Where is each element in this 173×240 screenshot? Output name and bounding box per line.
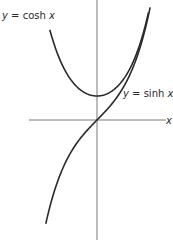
- cosh-label: y = cosh x: [1, 10, 55, 21]
- sinh-curve: [46, 7, 150, 223]
- x-axis-label: x: [165, 115, 172, 126]
- hyperbolic-functions-diagram: y = cosh x y = sinh x x: [0, 0, 173, 240]
- sinh-label: y = sinh x: [122, 88, 173, 99]
- cosh-curve: [50, 12, 149, 96]
